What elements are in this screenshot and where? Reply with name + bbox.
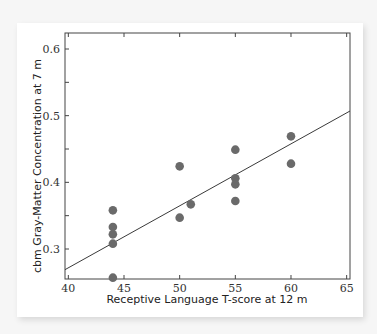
scatter-plot: 404550556065 0.30.40.50.6 Receptive Lang… <box>0 0 377 334</box>
x-tick-label: 40 <box>61 282 75 295</box>
data-point <box>175 213 184 222</box>
fit-line <box>65 111 350 270</box>
data-point <box>175 162 184 171</box>
y-tick-label: 0.6 <box>43 43 61 56</box>
data-points <box>109 132 296 282</box>
y-tick-label: 0.4 <box>43 176 61 189</box>
data-point <box>231 180 240 189</box>
y-axis-label: cbm Gray-Matter Concentration at 7 m <box>31 59 44 273</box>
x-axis-ticks: 404550556065 <box>61 33 353 295</box>
data-point <box>109 206 118 215</box>
data-point <box>109 223 118 232</box>
x-tick-label: 65 <box>340 282 354 295</box>
y-tick-label: 0.3 <box>43 243 61 256</box>
data-point <box>231 145 240 154</box>
y-tick-label: 0.5 <box>43 110 61 123</box>
x-axis-label: Receptive Language T-score at 12 m <box>106 293 307 306</box>
data-point <box>287 159 296 168</box>
data-point <box>287 132 296 141</box>
regression-line <box>65 111 350 270</box>
plot-frame <box>65 33 350 279</box>
data-point <box>187 200 196 209</box>
data-point <box>231 197 240 206</box>
data-point <box>109 239 118 248</box>
data-point <box>109 230 118 239</box>
data-point <box>109 273 118 282</box>
